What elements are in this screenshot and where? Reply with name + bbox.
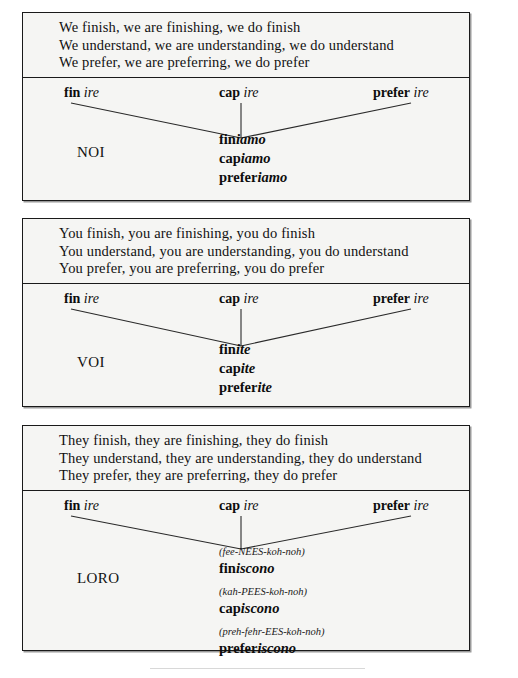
english-line: We finish, we are finishing, we do finis…	[59, 19, 469, 37]
conjugated-form: capite	[219, 359, 272, 378]
english-line: They finish, they are finishing, they do…	[59, 432, 469, 450]
stem-root: fin	[64, 85, 80, 100]
english-line: You understand, you are understanding, y…	[59, 243, 469, 261]
stem-cap: cap ire	[219, 498, 259, 514]
form-suffix: ite	[236, 341, 251, 357]
form-root: cap	[219, 360, 241, 376]
stem-prefer: prefer ire	[373, 291, 429, 307]
conjugated-form: preferite	[219, 378, 272, 397]
stem-ending: ire	[414, 498, 429, 513]
stem-fin: fin ire	[64, 85, 99, 101]
stem-cap: cap ire	[219, 85, 259, 101]
form-group: (fee-NEES-koh-noh) finiscono	[219, 544, 325, 578]
stem-prefer: prefer ire	[373, 85, 429, 101]
stem-ending: ire	[244, 291, 259, 306]
form-root: fin	[219, 341, 236, 357]
form-group: (kah-PEES-koh-noh) capiscono	[219, 584, 325, 618]
english-line: You prefer, you are preferring, you do p…	[59, 260, 469, 278]
form-suffix: ite	[257, 379, 272, 395]
conjugation-box-noi: We finish, we are finishing, we do finis…	[22, 12, 470, 201]
conjugated-forms-list: finite capite preferite	[219, 340, 272, 397]
stem-root: fin	[64, 498, 80, 513]
conjugated-form: finiscono	[219, 559, 325, 578]
stem-root: cap	[219, 85, 240, 100]
form-suffix: iamo	[241, 150, 271, 166]
conjugation-box-voi: You finish, you are finishing, you do fi…	[22, 218, 470, 407]
conjugated-form: capiamo	[219, 149, 287, 168]
stem-ending: ire	[414, 291, 429, 306]
form-suffix: ite	[241, 360, 256, 376]
english-translation-block: You finish, you are finishing, you do fi…	[23, 219, 469, 284]
english-line: They prefer, they are preferring, they d…	[59, 467, 469, 485]
conjugated-form: preferiscono	[219, 639, 325, 658]
form-root: fin	[219, 560, 236, 576]
stem-ending: ire	[84, 291, 99, 306]
form-suffix: iscono	[241, 600, 280, 616]
conjugated-form: finite	[219, 340, 272, 359]
stem-root: fin	[64, 291, 80, 306]
conjugation-diagram: fin ire cap ire prefer ire VOI finite ca…	[23, 284, 469, 408]
form-root: prefer	[219, 169, 257, 185]
conjugation-box-loro: They finish, they are finishing, they do…	[22, 425, 470, 651]
page-root: We finish, we are finishing, we do finis…	[0, 0, 518, 678]
stem-ending: ire	[244, 498, 259, 513]
form-root: cap	[219, 600, 241, 616]
form-root: fin	[219, 131, 236, 147]
conjugated-form: preferiamo	[219, 168, 287, 187]
form-suffix: iscono	[257, 640, 296, 656]
form-root: prefer	[219, 640, 257, 656]
english-line: They understand, they are understanding,…	[59, 450, 469, 468]
english-translation-block: They finish, they are finishing, they do…	[23, 426, 469, 491]
conjugated-form: finiamo	[219, 130, 287, 149]
form-root: prefer	[219, 379, 257, 395]
english-translation-block: We finish, we are finishing, we do finis…	[23, 13, 469, 78]
pronoun-label: LORO	[77, 570, 119, 587]
stem-ending: ire	[414, 85, 429, 100]
pronunciation-guide: (kah-PEES-koh-noh)	[219, 584, 325, 599]
stem-ending: ire	[244, 85, 259, 100]
conjugated-forms-list: finiamo capiamo preferiamo	[219, 130, 287, 187]
stem-root: prefer	[373, 498, 410, 513]
form-suffix: iamo	[257, 169, 287, 185]
form-suffix: iamo	[236, 131, 266, 147]
form-root: cap	[219, 150, 241, 166]
stem-ending: ire	[84, 498, 99, 513]
conjugation-diagram: fin ire cap ire prefer ire LORO (fee-NEE…	[23, 491, 469, 651]
page-footer-rule	[150, 668, 365, 669]
pronoun-label: VOI	[77, 354, 105, 371]
pronoun-label: NOI	[77, 144, 105, 161]
conjugated-forms-list: (fee-NEES-koh-noh) finiscono (kah-PEES-k…	[219, 544, 325, 664]
stem-root: cap	[219, 291, 240, 306]
stem-prefer: prefer ire	[373, 498, 429, 514]
stem-root: cap	[219, 498, 240, 513]
form-suffix: iscono	[236, 560, 275, 576]
form-group: (preh-fehr-EES-koh-noh) preferiscono	[219, 624, 325, 658]
stem-root: prefer	[373, 291, 410, 306]
pronunciation-guide: (fee-NEES-koh-noh)	[219, 544, 325, 559]
english-line: We understand, we are understanding, we …	[59, 37, 469, 55]
conjugation-diagram: fin ire cap ire prefer ire NOI finiamo c…	[23, 78, 469, 202]
stem-fin: fin ire	[64, 498, 99, 514]
conjugated-form: capiscono	[219, 599, 325, 618]
stem-cap: cap ire	[219, 291, 259, 307]
english-line: You finish, you are finishing, you do fi…	[59, 225, 469, 243]
stem-root: prefer	[373, 85, 410, 100]
english-line: We prefer, we are preferring, we do pref…	[59, 54, 469, 72]
pronunciation-guide: (preh-fehr-EES-koh-noh)	[219, 624, 325, 639]
stem-fin: fin ire	[64, 291, 99, 307]
stem-ending: ire	[84, 85, 99, 100]
